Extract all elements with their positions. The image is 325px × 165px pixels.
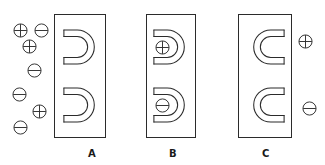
plus-charge-icon xyxy=(298,34,313,49)
minus-charge-icon xyxy=(34,23,49,38)
minus-charge-icon xyxy=(12,87,27,102)
minus-charge-icon xyxy=(13,120,28,135)
minus-charge-icon xyxy=(302,101,317,116)
minus-charge-icon xyxy=(155,98,170,113)
horseshoe-magnet-icon xyxy=(248,84,286,126)
physics-diagram: ABC xyxy=(0,0,325,165)
horseshoe-magnet-icon xyxy=(62,84,100,126)
plus-charge-icon xyxy=(155,40,170,55)
panel-label-c: C xyxy=(256,148,276,160)
plus-charge-icon xyxy=(22,39,37,54)
plus-charge-icon xyxy=(13,23,28,38)
horseshoe-magnet-icon xyxy=(248,26,286,68)
minus-charge-icon xyxy=(27,63,42,78)
horseshoe-magnet-icon xyxy=(62,26,100,68)
panel-label-b: B xyxy=(163,148,183,160)
plus-charge-icon xyxy=(32,104,47,119)
panel-label-a: A xyxy=(82,148,102,160)
